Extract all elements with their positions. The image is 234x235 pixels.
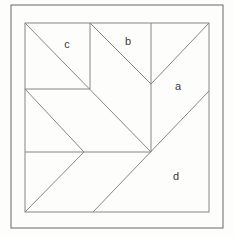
piece-label-a: a bbox=[175, 81, 181, 92]
piece-label-c: c bbox=[64, 39, 70, 50]
scanned-figure-page: abcd bbox=[0, 0, 234, 235]
piece-label-d: d bbox=[173, 171, 179, 182]
segment-chevron-upper-diagonal bbox=[25, 89, 84, 152]
segment-main-diagonal bbox=[25, 23, 151, 152]
puzzle-diagram bbox=[0, 0, 234, 235]
segment-chevron-lower-diagonal bbox=[25, 152, 84, 212]
segment-b-right-diagonal bbox=[151, 23, 209, 84]
segment-b-left-diagonal bbox=[90, 23, 151, 84]
piece-label-b: b bbox=[125, 36, 131, 47]
